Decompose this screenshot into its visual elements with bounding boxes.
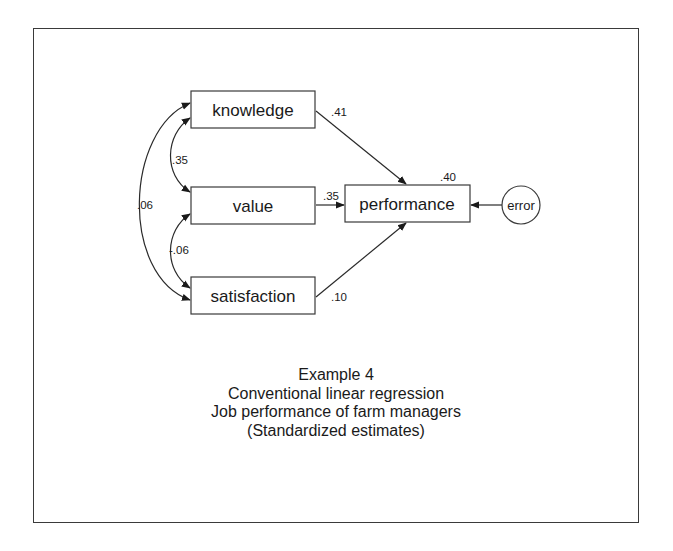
cov-value-satisfaction: -.06: [169, 244, 189, 256]
node-value: value: [191, 187, 315, 224]
coef-value-performance: .35: [323, 190, 339, 202]
coef-knowledge-performance: .41: [331, 106, 347, 118]
node-error: error: [502, 186, 540, 224]
path-satisfaction-performance: [316, 223, 406, 297]
node-satisfaction: satisfaction: [191, 277, 315, 314]
figure-caption: Example 4 Conventional linear regression…: [33, 366, 639, 440]
node-performance: performance: [345, 185, 470, 222]
caption-title: Example 4: [33, 366, 639, 385]
path-knowledge-performance: [316, 111, 406, 184]
node-performance-label: performance: [359, 195, 454, 214]
caption-note: (Standardized estimates): [33, 422, 639, 441]
r-squared-performance: .40: [440, 171, 456, 183]
cov-knowledge-value: .35: [172, 154, 188, 166]
caption-model: Conventional linear regression: [33, 385, 639, 404]
cov-knowledge-satisfaction: .06: [137, 199, 153, 211]
node-knowledge-label: knowledge: [212, 101, 293, 120]
node-value-label: value: [233, 197, 274, 216]
caption-subject: Job performance of farm managers: [33, 403, 639, 422]
node-error-label: error: [507, 198, 535, 213]
node-satisfaction-label: satisfaction: [210, 287, 295, 306]
coef-satisfaction-performance: .10: [331, 291, 347, 303]
node-knowledge: knowledge: [191, 91, 315, 128]
path-diagram: knowledge value satisfaction performance…: [0, 0, 673, 551]
